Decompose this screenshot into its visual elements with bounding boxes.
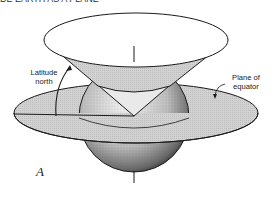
arrowhead-icon [66,65,72,71]
cone-top-opening [44,13,228,67]
panel-letter: A [36,164,44,180]
latitude-diagram: DE EARTH AS A PLANE [0,0,273,211]
plane-of-equator-label: Plane of equator [224,73,268,91]
latitude-north-label: Latitude north [22,68,66,86]
